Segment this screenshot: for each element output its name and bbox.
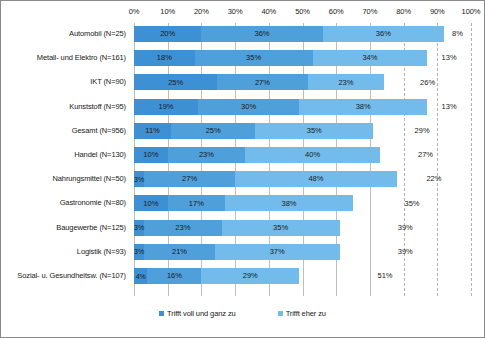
bar-segment: 36% [323,26,444,42]
chart-legend: Trifft voll und ganz zuTrifft eher zu [1,309,484,318]
bar-segment: 27% [144,171,235,187]
legend-item[interactable]: Trifft voll und ganz zu [159,309,236,318]
bar-segment: 16% [147,268,201,284]
bar-row: 20%36%36%8% [134,26,471,42]
bar-segment: 29% [373,123,471,139]
bar-segment-value-label: 19% [159,103,174,111]
bar-track: 11%25%35%29% [134,123,471,139]
bar-row: 18%35%34%13% [134,50,471,66]
bar-segment: 22% [397,171,471,187]
bar-track: 3%21%37%39% [134,244,471,260]
bar-segment-value-label: 37% [270,248,285,256]
bar-segment-value-label: 36% [376,30,391,38]
bar-segment-value-label: 27% [182,175,197,183]
category-label: Logistik (N=93) [1,244,130,260]
bar-track: 3%27%48%22% [134,171,471,187]
bar-segment-value-label: 3% [134,224,144,231]
x-tick-label: 60% [329,7,344,16]
bar-segment: 3% [134,244,144,260]
bar-segment: 34% [313,50,428,66]
bar-segment: 38% [225,195,353,211]
bar-segment: 39% [340,220,471,236]
bar-segment-value-label: 27% [418,151,433,159]
x-tick-label: 50% [295,7,310,16]
bar-segment-value-label: 39% [398,224,413,232]
category-label: Nahrungsmittel (N=50) [1,171,130,187]
bar-row: 3%23%35%39% [134,220,471,236]
bar-segment: 30% [198,99,299,115]
bar-segment-value-label: 10% [143,151,158,159]
bar-segment-value-label: 34% [362,54,377,62]
category-label: Handel (N=130) [1,147,130,163]
x-tick-label: 70% [363,7,378,16]
bar-row: 3%27%48%22% [134,171,471,187]
bar-segment: 11% [134,123,171,139]
x-axis-tick-labels: 0%10%20%30%40%50%60%70%80%90%100% [134,7,471,21]
bar-segment-value-label: 35% [246,54,261,62]
bar-segment: 26% [384,74,471,90]
bar-segment-value-label: 38% [281,200,296,208]
bar-segment: 25% [171,123,255,139]
bar-segment-value-label: 10% [143,200,158,208]
bar-segment: 38% [299,99,427,115]
bar-segment-value-label: 25% [206,127,221,135]
category-label: Gastronomie (N=80) [1,195,130,211]
bar-track: 10%17%38%35% [134,195,471,211]
bar-track: 4%16%29%51% [134,268,471,284]
x-tick-label: 40% [261,7,276,16]
legend-item[interactable]: Trifft eher zu [278,309,326,318]
bar-segment: 19% [134,99,198,115]
category-axis-labels: Automobil (N=25)Metall- und Elektro (N=1… [1,23,130,296]
chart-container: 0%10%20%30%40%50%60%70%80%90%100% Automo… [0,0,485,338]
bar-track: 10%23%40%27% [134,147,471,163]
bar-segment: 25% [134,74,217,90]
legend-swatch-icon [278,311,283,316]
x-tick-label: 0% [129,7,140,16]
bar-segment: 18% [134,50,195,66]
bar-segment-value-label: 29% [415,127,430,135]
bar-segment-value-label: 48% [308,175,323,183]
legend-label: Trifft voll und ganz zu [167,309,236,318]
bar-segment-value-label: 3% [134,176,144,183]
bar-track: 25%27%23%26% [134,74,471,90]
bar-segment-value-label: 26% [420,79,435,87]
bar-row: 3%21%37%39% [134,244,471,260]
bar-segment: 35% [255,123,373,139]
bar-segment-value-label: 23% [175,224,190,232]
bar-segment-value-label: 38% [356,103,371,111]
bar-segment-value-label: 21% [172,248,187,256]
category-label: Kunststoff (N=95) [1,99,130,115]
bar-row: 10%23%40%27% [134,147,471,163]
bar-segment-value-label: 35% [273,224,288,232]
x-tick-label: 30% [228,7,243,16]
bar-segment-value-label: 18% [157,54,172,62]
bar-segment: 3% [134,171,144,187]
bar-segment-value-label: 23% [199,151,214,159]
bar-segment-value-label: 39% [398,248,413,256]
x-tick-label: 80% [396,7,411,16]
legend-label: Trifft eher zu [286,309,326,318]
bar-segment: 3% [134,220,144,236]
bar-segment-value-label: 40% [305,151,320,159]
plot-area: 20%36%36%8%18%35%34%13%25%27%23%26%19%30… [134,23,471,296]
bar-row: 11%25%35%29% [134,123,471,139]
bar-segment-value-label: 51% [378,272,393,280]
bar-segment: 35% [353,195,471,211]
bar-segment: 37% [215,244,340,260]
bar-segment: 17% [168,195,225,211]
bar-segment: 23% [168,147,246,163]
bar-segment: 8% [444,26,471,42]
bar-segment-value-label: 16% [167,272,182,280]
bar-segment: 21% [144,244,215,260]
bar-segment: 35% [222,220,340,236]
bar-segment-value-label: 17% [189,200,204,208]
bar-segment: 36% [201,26,322,42]
bar-track: 3%23%35%39% [134,220,471,236]
bar-row: 25%27%23%26% [134,74,471,90]
bar-segment: 27% [380,147,471,163]
bar-segment: 27% [217,74,307,90]
bar-segment-value-label: 35% [404,200,419,208]
x-tick-label: 20% [194,7,209,16]
gridline [471,23,472,296]
bar-segment: 51% [299,268,471,284]
